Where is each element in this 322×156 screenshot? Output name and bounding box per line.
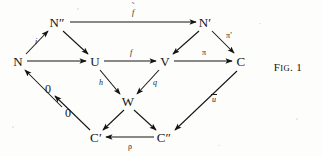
node-zero-upper[interactable]: 0: [45, 83, 51, 95]
edge-label-u-bar: u: [212, 96, 216, 104]
figure-canvas: N″ N′ N U V C W 0 0 C′ C″ ˜ f i f π π′ h…: [0, 0, 322, 156]
edge-label-i: i: [35, 38, 37, 46]
arrow-w-to-cbis: [134, 110, 156, 130]
paper-speck: [296, 118, 298, 120]
node-n[interactable]: N: [13, 55, 23, 68]
edge-label-f: f: [130, 49, 132, 57]
node-n-double-prime[interactable]: N″: [49, 16, 64, 29]
paper-speck: [12, 126, 14, 128]
edge-label-h: h: [99, 79, 103, 87]
paper-speck: [259, 23, 261, 24]
tilde-accent-icon: ˜: [132, 2, 135, 10]
arrow-zero-to-n: [25, 70, 62, 107]
node-u[interactable]: U: [90, 55, 100, 68]
arrow-cprime-to-zero: [55, 96, 90, 130]
node-zero-lower[interactable]: 0: [65, 107, 71, 119]
paper-speck: [77, 8, 79, 10]
node-n-prime[interactable]: N′: [199, 16, 212, 29]
node-c[interactable]: C: [237, 55, 246, 68]
figure-caption: FIG. 1: [274, 61, 303, 73]
edge-label-pi: π: [202, 49, 206, 57]
arrow-w-to-cprime: [103, 110, 124, 130]
arrow-c-to-cbis: [175, 71, 237, 130]
node-c-double-prime[interactable]: C″: [157, 131, 172, 144]
arrow-nbis-to-u: [63, 31, 88, 54]
edge-label-pi-prime: π′: [226, 32, 232, 40]
node-v[interactable]: V: [160, 55, 170, 68]
edge-label-rho: ρ: [128, 143, 132, 151]
figure-caption-ig: IG: [280, 63, 290, 73]
arrow-nprime-to-v: [173, 31, 199, 54]
node-w[interactable]: W: [122, 95, 134, 108]
figure-caption-number: . 1: [290, 61, 302, 73]
edge-label-u-bar-text: u: [212, 95, 216, 104]
edge-label-q: q: [153, 79, 157, 87]
edge-label-f-tilde: ˜ f: [132, 9, 134, 17]
arrow-u-to-w: [100, 70, 120, 94]
node-c-prime[interactable]: C′: [90, 131, 102, 144]
overbar-accent-icon: [211, 94, 217, 95]
paper-speck: [218, 145, 220, 146]
